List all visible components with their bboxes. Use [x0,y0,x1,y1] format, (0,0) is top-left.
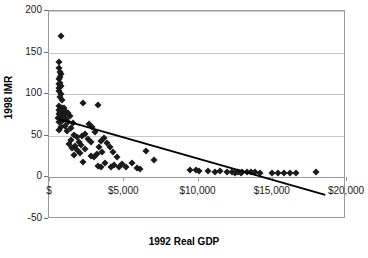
scatter-chart: 1998 IMR 1992 Real GDP 200150100500-50 $… [0,0,368,258]
y-tick-label: 50 [0,130,42,140]
y-tick-label: 0 [0,171,42,181]
y-tick-mark [44,218,48,219]
x-tick-mark [346,177,347,181]
y-tick-label: 150 [0,47,42,57]
x-axis-title: 1992 Real GDP [0,236,368,247]
y-tick-label: 200 [0,5,42,15]
trendline [49,11,346,219]
y-tick-label: -50 [0,213,42,223]
plot-area: $$5,000$10,000$15,000$20,000 [48,10,345,218]
y-tick-label: 100 [0,88,42,98]
